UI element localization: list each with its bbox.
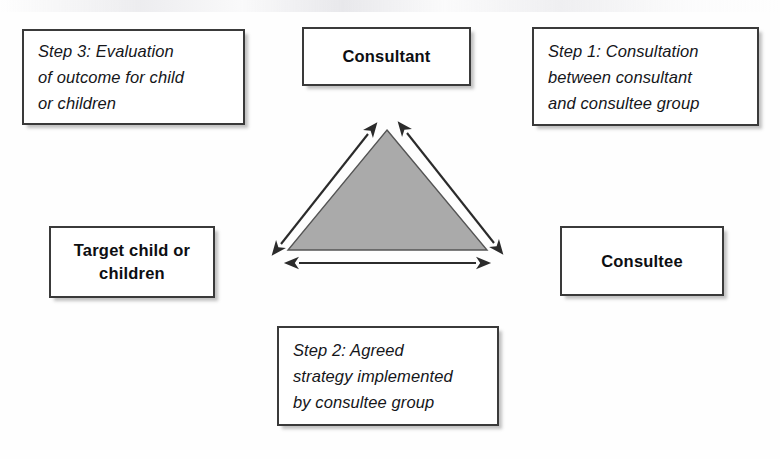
consultant-label: Consultant (318, 45, 455, 68)
step-1-consultation-label: Step 1: Consultation between consultant … (548, 38, 743, 116)
relationship-triangle-graphic (255, 112, 515, 287)
target-child-label: Target child or children (65, 239, 199, 285)
scan-edge-artifact (0, 0, 780, 12)
step-3-evaluation-box: Step 3: Evaluation of outcome for child … (22, 29, 245, 125)
step-3-evaluation-label: Step 3: Evaluation of outcome for child … (38, 38, 229, 116)
diagram-canvas: Step 3: Evaluation of outcome for child … (0, 0, 780, 459)
step-2-strategy-label: Step 2: Agreed strategy implemented by c… (293, 337, 483, 415)
consultee-box: Consultee (560, 226, 724, 296)
step-1-consultation-box: Step 1: Consultation between consultant … (532, 27, 759, 126)
step-2-strategy-box: Step 2: Agreed strategy implemented by c… (277, 326, 499, 426)
consultant-box: Consultant (302, 27, 471, 86)
target-child-box: Target child or children (49, 226, 215, 298)
consultee-label: Consultee (576, 250, 708, 273)
shaded-triangle (288, 130, 487, 250)
